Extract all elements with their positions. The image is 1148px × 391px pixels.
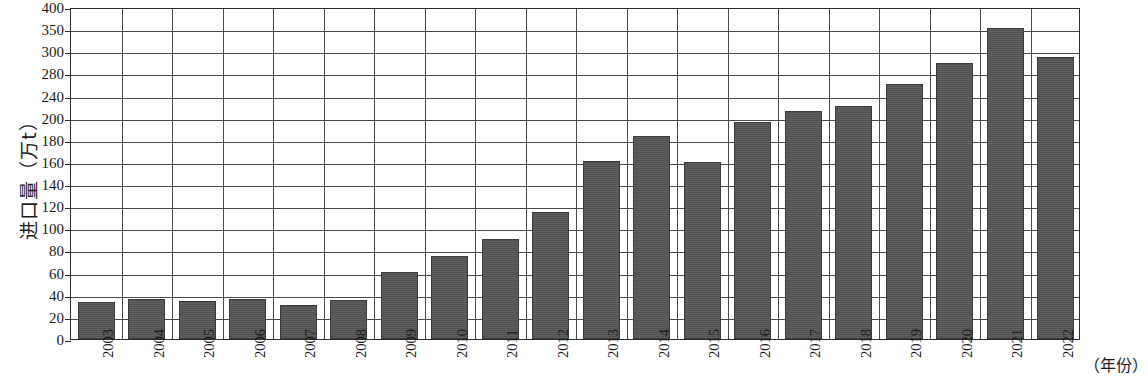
x-axis-tick-label: 2016 — [758, 344, 773, 358]
y-axis-tick-label: 60 — [4, 266, 64, 281]
x-axis-tick-labels: 2003200420052006200720082009201020112012… — [70, 340, 1080, 391]
y-axis-tick-label: 140 — [4, 178, 64, 193]
bar — [532, 212, 569, 339]
x-axis-tick-label: 2007 — [303, 344, 318, 358]
x-axis-tick-label: 2012 — [556, 344, 571, 358]
y-axis-tick-label: 80 — [4, 244, 64, 259]
y-axis-tick-label: 120 — [4, 200, 64, 215]
x-axis-tick-label: 2009 — [404, 344, 419, 358]
bar-chart: 进口量（万t） 40035030028024020018016014012010… — [0, 0, 1148, 391]
x-axis-tick-label: 2019 — [909, 344, 924, 358]
x-axis-tick-label: 2011 — [505, 344, 520, 358]
bar — [633, 136, 670, 339]
y-axis-tick-label: 0 — [4, 333, 64, 348]
bar — [1037, 57, 1074, 339]
y-axis-tick-label: 280 — [4, 67, 64, 82]
x-axis-tick-label: 2005 — [202, 344, 217, 358]
plot-area — [70, 8, 1080, 340]
bar — [886, 84, 923, 339]
bar — [684, 162, 721, 339]
x-axis-tick-label: 2015 — [707, 344, 722, 358]
x-axis-tick-label: 2010 — [455, 344, 470, 358]
x-axis-tick-label: 2004 — [152, 344, 167, 358]
y-axis-tick-label: 200 — [4, 111, 64, 126]
x-axis-tick-label: 2014 — [657, 344, 672, 358]
bar — [431, 256, 468, 339]
bar — [987, 28, 1024, 339]
x-axis-tick-label: 2017 — [808, 344, 823, 358]
x-axis-tick-label: 2018 — [859, 344, 874, 358]
bars-layer — [71, 9, 1079, 339]
x-axis-tick-label: 2022 — [1061, 344, 1076, 358]
y-axis-tick-label: 180 — [4, 133, 64, 148]
x-axis-title: （年份） — [1084, 352, 1148, 376]
bar — [835, 106, 872, 340]
y-axis-tick-label: 300 — [4, 45, 64, 60]
x-axis-tick-label: 2020 — [960, 344, 975, 358]
y-axis-tick-labels: 4003503002802402001801601401201008060402… — [0, 0, 68, 340]
y-axis-tick-label: 240 — [4, 89, 64, 104]
y-axis-tick-label: 400 — [4, 1, 64, 16]
x-axis-tick-label: 2008 — [354, 344, 369, 358]
bar — [583, 161, 620, 339]
y-axis-tick-label: 20 — [4, 310, 64, 325]
x-axis-tick-label: 2013 — [606, 344, 621, 358]
bar — [734, 122, 771, 339]
y-axis-tick-label: 350 — [4, 23, 64, 38]
bar — [482, 239, 519, 339]
x-axis-tick-label: 2006 — [253, 344, 268, 358]
bar — [785, 111, 822, 339]
x-axis-tick-label: 2021 — [1010, 344, 1025, 358]
y-axis-tick-label: 160 — [4, 155, 64, 170]
y-axis-tick-label: 100 — [4, 222, 64, 237]
x-axis-tick-label: 2003 — [101, 344, 116, 358]
y-axis-tick-label: 40 — [4, 288, 64, 303]
bar — [936, 63, 973, 339]
